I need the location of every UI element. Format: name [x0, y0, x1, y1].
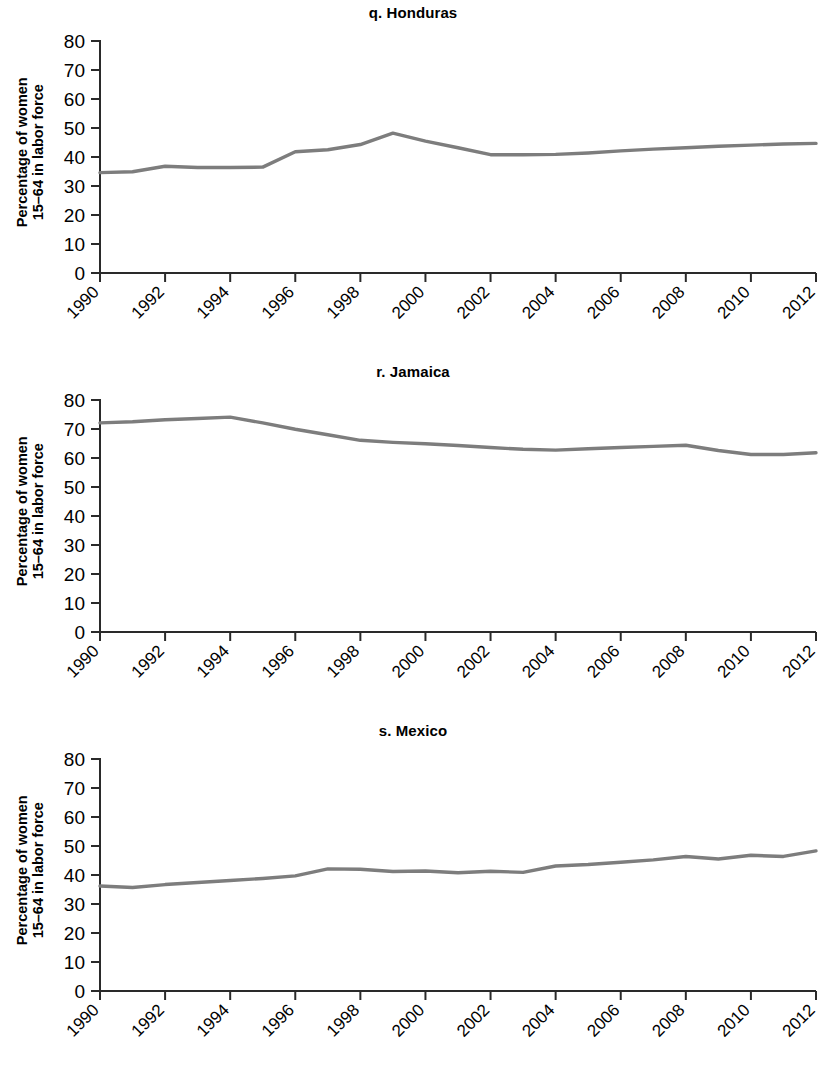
x-axis-tick-label: 2000: [388, 1000, 428, 1040]
y-axis-tick-label: 20: [64, 923, 85, 944]
x-axis-tick-label: 2004: [518, 282, 558, 322]
y-axis-tick-label: 40: [64, 865, 85, 886]
x-axis-tick-label: 2008: [648, 641, 688, 681]
x-axis-tick-label: 1996: [258, 1000, 298, 1040]
y-axis-tick-label: 80: [64, 390, 85, 411]
y-axis-tick-label: 30: [64, 176, 85, 197]
y-axis-tick-label: 70: [64, 778, 85, 799]
y-axis-tick-label: 50: [64, 477, 85, 498]
data-series-line: [100, 133, 816, 172]
y-axis-tick-label: 40: [64, 506, 85, 527]
x-axis-tick-label: 2004: [518, 641, 558, 681]
x-axis-tick-label: 2006: [583, 282, 623, 322]
y-axis-tick-label: 50: [64, 836, 85, 857]
data-series-line: [100, 851, 816, 888]
x-axis-tick-label: 1990: [63, 1000, 103, 1040]
y-axis-tick-label: 20: [64, 205, 85, 226]
y-axis-tick-label: 80: [64, 749, 85, 770]
x-axis-tick-label: 2010: [714, 282, 754, 322]
x-axis-tick-label: 1992: [128, 1000, 168, 1040]
x-axis-tick-label: 2010: [714, 1000, 754, 1040]
y-axis-tick-label: 60: [64, 807, 85, 828]
y-axis-tick-label: 60: [64, 89, 85, 110]
y-axis-tick-label: 50: [64, 118, 85, 139]
x-axis-tick-label: 1990: [63, 282, 103, 322]
x-axis-tick-label: 1998: [323, 1000, 363, 1040]
y-axis-tick-label: 10: [64, 234, 85, 255]
y-axis-tick-label: 80: [64, 31, 85, 52]
x-axis-tick-label: 2010: [714, 641, 754, 681]
y-axis-tick-label: 0: [74, 981, 85, 1002]
data-series-line: [100, 417, 816, 454]
plot-area-honduras: 0102030405060708019901992199419961998200…: [0, 0, 826, 359]
x-axis-tick-label: 2012: [779, 641, 819, 681]
plot-area-mexico: 0102030405060708019901992199419961998200…: [0, 718, 826, 1077]
x-axis-tick-label: 2006: [583, 1000, 623, 1040]
x-axis-tick-label: 1996: [258, 641, 298, 681]
x-axis-tick-label: 1994: [193, 282, 233, 322]
y-axis-tick-label: 60: [64, 448, 85, 469]
x-axis-tick-label: 1998: [323, 282, 363, 322]
y-axis-tick-label: 0: [74, 622, 85, 643]
x-axis-tick-label: 2000: [388, 641, 428, 681]
x-axis-tick-label: 1998: [323, 641, 363, 681]
x-axis-tick-label: 1994: [193, 641, 233, 681]
y-axis-tick-label: 70: [64, 60, 85, 81]
x-axis-tick-label: 1992: [128, 282, 168, 322]
x-axis-tick-label: 1992: [128, 641, 168, 681]
x-axis-tick-label: 1996: [258, 282, 298, 322]
x-axis-tick-label: 2002: [453, 1000, 493, 1040]
y-axis-tick-label: 40: [64, 147, 85, 168]
x-axis-tick-label: 2006: [583, 641, 623, 681]
y-axis-tick-label: 10: [64, 593, 85, 614]
y-axis-tick-label: 0: [74, 263, 85, 284]
chart-panel-jamaica: r. Jamaica Percentage of women 15–64 in …: [0, 359, 826, 718]
x-axis-tick-label: 2004: [518, 1000, 558, 1040]
x-axis-tick-label: 2008: [648, 282, 688, 322]
x-axis-tick-label: 2000: [388, 282, 428, 322]
y-axis-tick-label: 70: [64, 419, 85, 440]
y-axis-tick-label: 20: [64, 564, 85, 585]
y-axis-tick-label: 30: [64, 535, 85, 556]
y-axis-tick-label: 10: [64, 952, 85, 973]
x-axis-tick-label: 2002: [453, 282, 493, 322]
y-axis-tick-label: 30: [64, 894, 85, 915]
x-axis-tick-label: 1990: [63, 641, 103, 681]
x-axis-tick-label: 2012: [779, 282, 819, 322]
x-axis-tick-label: 2002: [453, 641, 493, 681]
x-axis-tick-label: 2012: [779, 1000, 819, 1040]
plot-area-jamaica: 0102030405060708019901992199419961998200…: [0, 359, 826, 718]
chart-panel-mexico: s. Mexico Percentage of women 15–64 in l…: [0, 718, 826, 1077]
x-axis-tick-label: 2008: [648, 1000, 688, 1040]
x-axis-tick-label: 1994: [193, 1000, 233, 1040]
chart-panel-honduras: q. Honduras Percentage of women 15–64 in…: [0, 0, 826, 359]
